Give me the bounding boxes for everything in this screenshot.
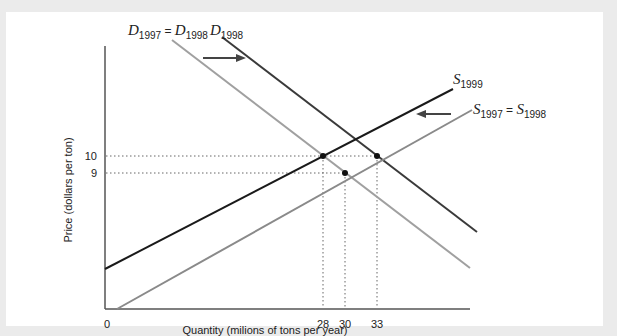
demand-shift-arrow <box>203 54 246 62</box>
y-tick-10: 10 <box>85 150 97 162</box>
guide-lines <box>106 156 377 308</box>
supply-curve-1999 <box>105 89 453 269</box>
demand-curve-1998 <box>222 37 477 232</box>
y-axis-label: Price (dollars per ton) <box>62 137 74 242</box>
label-supply-1999: S1999 <box>453 71 483 90</box>
x-axis-label: Quantity (milions of tons per year) <box>182 324 347 336</box>
y-tick-9: 9 <box>91 167 97 179</box>
x-tick-33: 33 <box>371 318 383 330</box>
x-tick-0: 0 <box>104 318 110 330</box>
label-demand-1997: D1997 = D1998 <box>127 22 208 41</box>
supply-demand-chart: 10 9 0 28 30 33 Quantity (milions of ton… <box>0 0 617 336</box>
equilibrium-point-33-10 <box>374 153 380 159</box>
label-supply-1997: S1997 = S1998 <box>473 101 547 120</box>
label-demand-1998: D1998 <box>209 22 244 41</box>
equilibrium-point-28-10 <box>320 153 326 159</box>
supply-shift-arrow <box>416 110 451 118</box>
supply-curve-1997 <box>117 110 472 309</box>
equilibrium-point-30-9 <box>342 170 348 176</box>
